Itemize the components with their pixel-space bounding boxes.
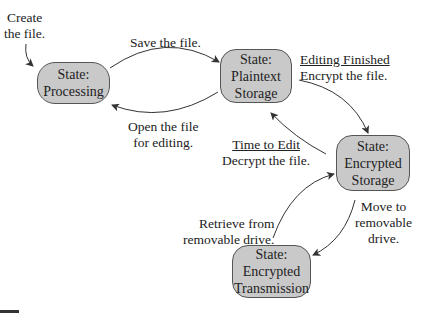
label-decrypt-heading: Time to Edit [222,137,310,153]
edge-create [26,44,33,66]
edge-open [112,92,218,113]
state-encrypted-transmission: State: Encrypted Transmission [232,245,311,298]
node-line: State: [357,138,389,155]
label-decrypt-text: Decrypt the file. [222,153,310,168]
node-line: Transmission [234,280,309,297]
label-encrypt: Editing Finished Encrypt the file. [300,52,390,84]
node-line: State: [240,51,272,68]
label-move: Move to removable drive. [355,199,412,247]
label-save: Save the file. [130,35,201,51]
state-plaintext-storage: State: Plaintext Storage [220,49,292,103]
label-encrypt-text: Encrypt the file. [300,68,387,83]
node-line: Processing [43,83,104,100]
label-decrypt: Time to Edit Decrypt the file. [222,137,310,169]
edge-encrypt [299,80,368,133]
label-open: Open the file for editing. [128,119,198,151]
node-line: Plaintext [231,68,281,85]
node-line: State: [256,246,288,263]
node-line: Encrypted [243,263,301,280]
label-create: Create the file. [4,10,45,42]
edge-retrieve [273,174,334,238]
state-processing: State: Processing [37,62,110,104]
label-encrypt-heading: Editing Finished [300,52,390,68]
node-line: Storage [235,85,278,102]
state-encrypted-storage: State: Encrypted Storage [336,135,410,191]
edge-move [313,200,355,255]
label-retrieve: Retrieve from removable drive. [183,216,274,248]
node-line: Storage [352,172,395,189]
node-line: Encrypted [344,155,402,172]
node-line: State: [58,66,90,83]
